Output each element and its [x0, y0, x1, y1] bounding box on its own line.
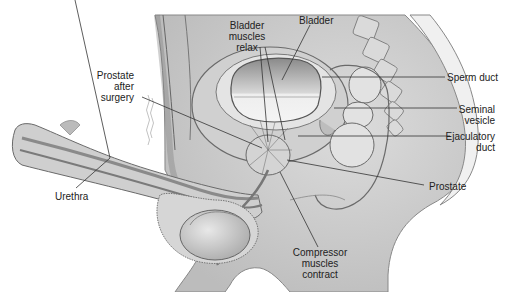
label-urethra: Urethra — [55, 191, 88, 202]
label-seminal-vesicle: Seminal vesicle — [440, 104, 495, 126]
label-ejaculatory-duct: Ejaculatory duct — [440, 131, 495, 153]
label-sperm-duct: Sperm duct — [447, 72, 498, 83]
bladder — [231, 58, 321, 122]
label-bladder-muscles-relax: Bladder muscles relax — [220, 20, 274, 53]
pubic-hair — [147, 95, 154, 145]
label-prostate: Prostate — [429, 181, 466, 192]
label-bladder: Bladder — [299, 15, 333, 26]
label-compressor-muscles-contract: Compressor muscles contract — [290, 247, 350, 280]
label-prostate-after-surgery: Prostate after surgery — [82, 70, 134, 103]
